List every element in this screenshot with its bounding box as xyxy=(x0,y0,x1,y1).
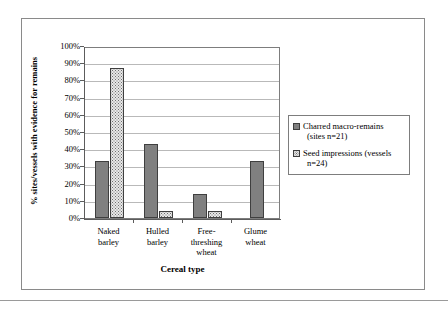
y-axis-title: % sites/vessels with evidence for remain… xyxy=(29,51,39,211)
legend-label-series-1: Seed impressions (vessels n=24) xyxy=(303,148,391,168)
legend-label-series-0-line1: Charred macro-remains xyxy=(303,121,383,131)
legend-swatch-icon-series-0 xyxy=(293,123,300,130)
bar-hulled-barley-series-0[interactable] xyxy=(144,144,158,218)
y-axis-tick xyxy=(80,218,84,219)
y-axis-tick-label: 60% xyxy=(44,111,80,120)
y-axis-tick xyxy=(80,63,84,64)
x-axis-category-label-line: Hulled xyxy=(133,226,182,237)
x-axis-category-label-line: barley xyxy=(133,237,182,248)
x-axis-category-label: Free-threshingwheat xyxy=(182,226,231,258)
x-axis-title: Cereal type xyxy=(84,264,281,274)
y-axis-tick-label: 30% xyxy=(44,162,80,171)
x-axis-tick xyxy=(231,219,232,223)
y-axis-tick-label: 80% xyxy=(44,76,80,85)
plot-area xyxy=(84,47,280,219)
chart-legend: Charred macro-remains (sites n=21) Seed … xyxy=(288,115,410,175)
y-axis-tick xyxy=(80,98,84,99)
bar-naked-barley-series-1[interactable] xyxy=(110,68,124,218)
x-axis-category-label-line: Free- xyxy=(182,226,231,237)
bar-free-threshing-wheat-series-1[interactable] xyxy=(208,211,222,218)
legend-label-series-0-line2: (sites n=21) xyxy=(303,131,383,141)
y-axis-tick xyxy=(80,115,84,116)
x-axis-category-label-line: barley xyxy=(84,237,133,248)
legend-label-series-0: Charred macro-remains (sites n=21) xyxy=(303,121,383,141)
y-axis-tick xyxy=(80,149,84,150)
y-axis-tick xyxy=(80,201,84,202)
bar-glume-wheat-series-0[interactable] xyxy=(250,161,264,218)
x-axis-category-label-line: Naked xyxy=(84,226,133,237)
y-axis-tick-label: 20% xyxy=(44,180,80,189)
y-axis-tick-label: 40% xyxy=(44,145,80,154)
x-axis-category-label-line: threshing xyxy=(182,237,231,248)
legend-label-series-1-line2: n=24) xyxy=(303,158,391,168)
y-axis-tick xyxy=(80,80,84,81)
y-axis-line xyxy=(84,47,85,220)
y-axis-tick xyxy=(80,166,84,167)
gridline xyxy=(85,64,279,65)
y-axis-tick-label: 10% xyxy=(44,197,80,206)
x-axis-category-label: Nakedbarley xyxy=(84,226,133,247)
y-axis-tick xyxy=(80,184,84,185)
y-axis-tick-label: 70% xyxy=(44,94,80,103)
y-axis-tick-label: 100% xyxy=(44,42,80,51)
y-axis-tick-labels: 0%10%20%30%40%50%60%70%80%90%100% xyxy=(42,0,80,314)
y-axis-tick-label: 90% xyxy=(44,59,80,68)
bar-hulled-barley-series-1[interactable] xyxy=(159,211,173,218)
bar-naked-barley-series-0[interactable] xyxy=(95,161,109,218)
x-axis-category-label-line: wheat xyxy=(231,237,280,248)
y-axis-tick-label: 50% xyxy=(44,128,80,137)
y-axis-tick xyxy=(80,132,84,133)
x-axis-category-label-line: wheat xyxy=(182,247,231,258)
legend-label-series-1-line1: Seed impressions (vessels xyxy=(303,148,391,158)
x-axis-category-label: Glumewheat xyxy=(231,226,280,247)
legend-swatch-icon-series-1 xyxy=(293,150,300,157)
x-axis-category-label: Hulledbarley xyxy=(133,226,182,247)
x-axis-category-label-line: Glume xyxy=(231,226,280,237)
y-axis-tick xyxy=(80,46,84,47)
page-divider-rule xyxy=(0,300,448,301)
legend-item-charred-macro-remains[interactable]: Charred macro-remains (sites n=21) xyxy=(293,121,405,141)
x-axis-tick xyxy=(133,219,134,223)
x-axis-tick xyxy=(182,219,183,223)
y-axis-tick-label: 0% xyxy=(44,214,80,223)
legend-item-seed-impressions[interactable]: Seed impressions (vessels n=24) xyxy=(293,148,405,168)
bar-free-threshing-wheat-series-0[interactable] xyxy=(193,194,207,218)
